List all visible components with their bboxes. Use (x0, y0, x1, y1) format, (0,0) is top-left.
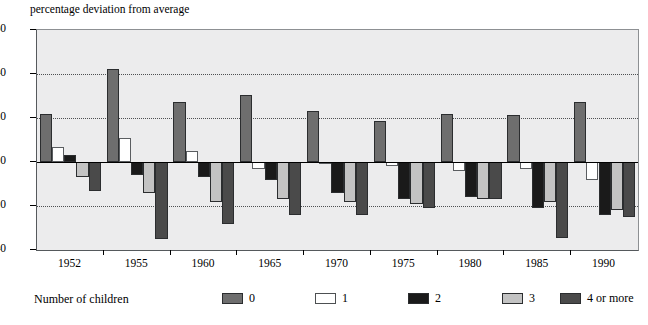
bar (544, 162, 556, 202)
bar (331, 162, 343, 193)
bar (556, 162, 568, 238)
bar (186, 151, 198, 162)
y-axis-tick-mark (30, 249, 36, 250)
x-axis-tick-label: 1960 (191, 257, 214, 270)
bar (89, 162, 101, 191)
bar (489, 162, 501, 199)
bar (465, 162, 477, 197)
x-axis-tick-label: 1955 (125, 257, 148, 270)
x-axis-tick-mark (170, 250, 171, 255)
bar (240, 95, 252, 162)
bar (107, 69, 119, 163)
chart-legend: Number of children 01234 or more (0, 288, 648, 318)
bar (453, 162, 465, 171)
y-axis-tick-mark (30, 29, 36, 30)
legend-label: 3 (529, 291, 535, 306)
bar (222, 162, 234, 224)
bar (289, 162, 301, 215)
legend-label: 4 or more (587, 291, 634, 306)
legend-label: 0 (249, 291, 255, 306)
y-axis-tick-label: 20 (0, 111, 6, 122)
x-axis-tick-label: 1970 (325, 257, 348, 270)
plot-area (36, 29, 639, 251)
gridline (37, 74, 638, 75)
bar (277, 162, 289, 199)
legend-swatch-icon (408, 293, 429, 304)
bar (410, 162, 422, 204)
x-axis-tick-mark (370, 250, 371, 255)
bar (532, 162, 544, 208)
y-axis-title: percentage deviation from average (30, 2, 189, 16)
legend-label: 2 (435, 291, 441, 306)
legend-title: Number of children (34, 292, 129, 307)
bar (52, 147, 64, 162)
bar (441, 114, 453, 162)
x-axis-tick-mark (503, 250, 504, 255)
bar (574, 102, 586, 163)
legend-swatch-icon (502, 293, 523, 304)
legend-swatch-icon (222, 293, 243, 304)
y-axis-tick-mark (30, 205, 36, 206)
bar (131, 162, 143, 175)
chart-figure: percentage deviation from average 604020… (0, 0, 648, 325)
x-axis-tick-label: 1980 (459, 257, 482, 270)
bar (155, 162, 167, 239)
bar (623, 162, 635, 217)
bar (198, 162, 210, 177)
bar (76, 162, 88, 177)
legend-swatch-icon (560, 293, 581, 304)
x-axis-tick-label: 1985 (525, 257, 548, 270)
bar (374, 121, 386, 162)
bar (173, 102, 185, 163)
x-axis-tick-label: 1975 (392, 257, 415, 270)
bar (477, 162, 489, 199)
gridline (37, 118, 638, 119)
x-axis-tick-label: 1965 (258, 257, 281, 270)
y-axis-tick-label: 0 (0, 155, 6, 166)
y-axis-tick-label: 60 (0, 23, 6, 34)
x-axis-tick-mark (437, 250, 438, 255)
bar (265, 162, 277, 180)
bar (64, 155, 76, 162)
x-axis-tick-label: 1952 (58, 257, 81, 270)
bar (586, 162, 598, 180)
x-axis-tick-mark (570, 250, 571, 255)
y-axis-tick-label: -40 (0, 243, 6, 254)
zero-baseline (37, 162, 638, 163)
legend-label: 1 (342, 291, 348, 306)
y-axis-tick-mark (30, 73, 36, 74)
bar (40, 114, 52, 162)
bar (398, 162, 410, 199)
bar (344, 162, 356, 202)
bar (356, 162, 368, 215)
bar (307, 111, 319, 162)
bar (611, 162, 623, 210)
bar (599, 162, 611, 215)
x-axis-tick-mark (303, 250, 304, 255)
y-axis-tick-mark (30, 161, 36, 162)
x-axis-tick-mark (236, 250, 237, 255)
bar (210, 162, 222, 202)
bar (423, 162, 435, 208)
x-axis-tick-label: 1990 (592, 257, 615, 270)
bar (119, 138, 131, 162)
gridline (37, 206, 638, 207)
y-axis-tick-label: -20 (0, 199, 6, 210)
bar (143, 162, 155, 193)
bar (507, 115, 519, 162)
x-axis-tick-mark (103, 250, 104, 255)
y-axis-tick-mark (30, 117, 36, 118)
legend-swatch-icon (315, 293, 336, 304)
y-axis-tick-label: 40 (0, 67, 6, 78)
